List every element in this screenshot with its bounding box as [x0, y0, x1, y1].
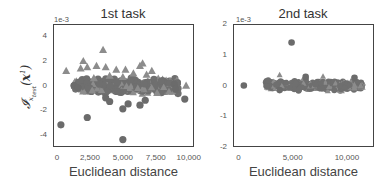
circle-marker [351, 75, 358, 82]
circle-marker [288, 39, 295, 46]
circle-marker [302, 74, 309, 81]
circle-marker [241, 82, 248, 89]
circle-marker [276, 87, 283, 94]
triangle-marker [320, 73, 326, 78]
triangle-marker [277, 72, 283, 77]
right-scatter-plot [0, 0, 389, 185]
